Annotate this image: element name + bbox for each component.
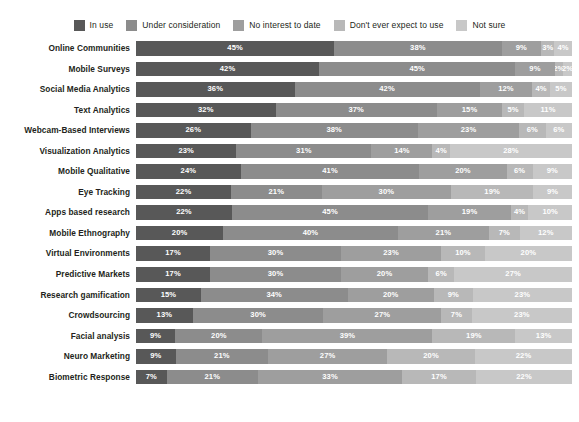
bar-segment[interactable]: 20%: [419, 164, 506, 179]
bar-segment-value: 41%: [322, 164, 338, 179]
bar-segment[interactable]: 38%: [334, 41, 501, 56]
bar-segment[interactable]: 9%: [533, 164, 572, 179]
bar-segment[interactable]: 10%: [441, 246, 485, 261]
bar-segment-value: 26%: [186, 123, 202, 138]
bar-segment[interactable]: 20%: [387, 349, 475, 364]
bar-segment[interactable]: 24%: [136, 164, 241, 179]
bar-segment[interactable]: 23%: [418, 123, 519, 138]
bar-segment[interactable]: 7%: [441, 308, 472, 323]
bar-segment[interactable]: 23%: [473, 288, 572, 303]
bar-segment[interactable]: 31%: [236, 144, 371, 159]
bar-segment[interactable]: 23%: [472, 308, 572, 323]
bar-segment[interactable]: 42%: [295, 82, 480, 97]
bar-segment[interactable]: 20%: [485, 246, 572, 261]
bar-segment[interactable]: 6%: [519, 123, 545, 138]
bar-segment[interactable]: 39%: [262, 329, 432, 344]
bar-segment[interactable]: 2%: [555, 62, 564, 77]
bar-segment[interactable]: 11%: [524, 103, 572, 118]
bar-segment[interactable]: 28%: [450, 144, 572, 159]
bar-segment[interactable]: 13%: [136, 308, 193, 323]
bar-segment[interactable]: 4%: [511, 205, 528, 220]
bar-row: Facial analysis9%20%39%19%13%: [0, 329, 579, 350]
bar-segment[interactable]: 6%: [546, 123, 572, 138]
bar-segment[interactable]: 41%: [241, 164, 420, 179]
bar-segment[interactable]: 7%: [489, 226, 520, 241]
bar-segment[interactable]: 30%: [193, 308, 324, 323]
bar-segment[interactable]: 12%: [520, 226, 572, 241]
bar-segment[interactable]: 45%: [136, 41, 334, 56]
bar-segment[interactable]: 6%: [428, 267, 454, 282]
bar-segment[interactable]: 5%: [550, 82, 572, 97]
bar-segment-value: 23%: [383, 246, 399, 261]
bar-segment[interactable]: 22%: [136, 185, 231, 200]
bar-segment[interactable]: 20%: [175, 329, 262, 344]
bar-segment[interactable]: 27%: [323, 308, 441, 323]
bar-segment[interactable]: 30%: [322, 185, 452, 200]
bar-segment[interactable]: 22%: [136, 205, 232, 220]
bar-segment[interactable]: 36%: [136, 82, 295, 97]
bar-segment[interactable]: 21%: [176, 349, 268, 364]
bar-segment[interactable]: 10%: [528, 205, 572, 220]
bar-segment[interactable]: 9%: [434, 288, 473, 303]
bar-segment[interactable]: 7%: [136, 370, 167, 385]
bar-segment[interactable]: 45%: [232, 205, 428, 220]
bar-segment[interactable]: 27%: [268, 349, 387, 364]
bar-segment[interactable]: 19%: [428, 205, 511, 220]
bar-segment[interactable]: 17%: [402, 370, 476, 385]
legend-item-3[interactable]: Don't ever expect to use: [334, 20, 444, 31]
bar-segment[interactable]: 20%: [136, 226, 223, 241]
bar-segment[interactable]: 20%: [348, 288, 434, 303]
bar-segment[interactable]: 13%: [515, 329, 572, 344]
bar-segment[interactable]: 4%: [532, 82, 550, 97]
bar-segment[interactable]: 9%: [136, 329, 175, 344]
bar-segment-value: 27%: [375, 308, 391, 323]
legend-item-0[interactable]: In use: [74, 20, 114, 31]
bar-segment[interactable]: 5%: [502, 103, 524, 118]
bar-segment[interactable]: 14%: [371, 144, 432, 159]
bar-segment[interactable]: 26%: [136, 123, 251, 138]
bar-segment[interactable]: 3%: [541, 41, 554, 56]
bar-segment-value: 27%: [320, 349, 336, 364]
bar-segment[interactable]: 9%: [502, 41, 542, 56]
legend-item-4[interactable]: Not sure: [456, 20, 505, 31]
bar-segment[interactable]: 2%: [563, 62, 572, 77]
bar-segment[interactable]: 21%: [167, 370, 259, 385]
legend-item-2[interactable]: No interest to date: [233, 20, 320, 31]
bar-segment[interactable]: 12%: [480, 82, 533, 97]
bar-segment[interactable]: 15%: [437, 103, 502, 118]
stacked-bar-track: 45%38%9%3%4%: [136, 41, 572, 56]
bar-segment-value: 21%: [436, 226, 452, 241]
bar-segment[interactable]: 17%: [136, 246, 210, 261]
bar-segment[interactable]: 20%: [341, 267, 428, 282]
bar-segment[interactable]: 9%: [136, 349, 176, 364]
bar-segment[interactable]: 30%: [210, 246, 341, 261]
bar-segment[interactable]: 37%: [276, 103, 437, 118]
bar-segment[interactable]: 9%: [515, 62, 554, 77]
bar-segment[interactable]: 19%: [432, 329, 515, 344]
bar-segment[interactable]: 4%: [432, 144, 449, 159]
bar-segment[interactable]: 30%: [210, 267, 341, 282]
bar-segment[interactable]: 23%: [341, 246, 441, 261]
bar-segment[interactable]: 4%: [554, 41, 572, 56]
bar-segment[interactable]: 40%: [223, 226, 397, 241]
bar-segment[interactable]: 22%: [475, 349, 572, 364]
bar-segment[interactable]: 42%: [136, 62, 319, 77]
bar-segment[interactable]: 23%: [136, 144, 236, 159]
bar-segment[interactable]: 15%: [136, 288, 201, 303]
bar-segment[interactable]: 17%: [136, 267, 210, 282]
bar-segment[interactable]: 33%: [258, 370, 402, 385]
bar-segment[interactable]: 22%: [476, 370, 572, 385]
category-label: Facial analysis: [0, 329, 130, 344]
bar-segment[interactable]: 27%: [454, 267, 572, 282]
bar-segment[interactable]: 6%: [507, 164, 533, 179]
bar-segment[interactable]: 21%: [398, 226, 490, 241]
bar-segment[interactable]: 32%: [136, 103, 276, 118]
bar-segment[interactable]: 21%: [231, 185, 322, 200]
bar-segment[interactable]: 45%: [319, 62, 515, 77]
bar-segment-value: 4%: [436, 144, 447, 159]
bar-segment[interactable]: 9%: [533, 185, 572, 200]
bar-segment[interactable]: 38%: [251, 123, 418, 138]
legend-item-1[interactable]: Under consideration: [126, 20, 220, 31]
bar-segment[interactable]: 19%: [451, 185, 533, 200]
bar-segment[interactable]: 34%: [201, 288, 348, 303]
